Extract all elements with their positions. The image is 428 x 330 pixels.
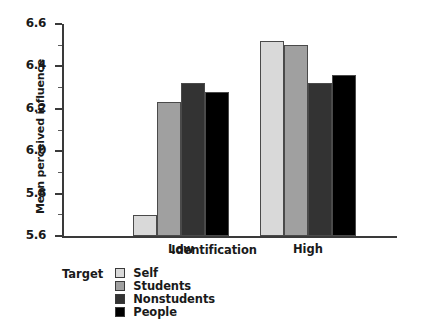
bar	[157, 102, 181, 236]
legend: Target SelfStudentsNonstudentsPeople	[62, 266, 215, 318]
y-axis-minor-tick	[58, 130, 62, 131]
y-axis-minor-tick	[58, 172, 62, 173]
y-axis-minor-tick	[58, 45, 62, 46]
y-axis-tick: 6.6	[55, 23, 62, 25]
y-axis-minor-tick	[58, 214, 62, 215]
legend-swatch	[115, 281, 125, 291]
y-axis-line	[62, 24, 64, 237]
y-axis-tick-label: 5.8	[26, 186, 46, 200]
y-axis-minor-tick	[58, 87, 62, 88]
bar	[308, 83, 332, 236]
bar	[332, 75, 356, 236]
bar-chart-figure: Mean perceived influence 5.65.86.06.26.4…	[0, 0, 428, 330]
bar	[260, 41, 284, 236]
x-axis-line	[62, 236, 397, 238]
bar	[205, 92, 229, 236]
bar	[284, 45, 308, 236]
legend-item: People	[115, 305, 215, 318]
legend-swatch	[115, 294, 125, 304]
legend-item-label: Students	[133, 279, 191, 293]
y-axis-tick: 6.0	[55, 150, 62, 152]
y-axis-tick-label: 6.0	[26, 143, 46, 157]
y-axis-tick: 5.8	[55, 193, 62, 195]
x-axis-title: Identification	[0, 243, 428, 257]
legend-item: Students	[115, 279, 215, 292]
y-axis-tick-label: 6.4	[26, 58, 46, 72]
y-axis-tick-label: 6.2	[26, 101, 46, 115]
bar	[181, 83, 205, 236]
plot-area: 5.65.86.06.26.46.6LowHigh	[62, 24, 397, 236]
legend-item: Nonstudents	[115, 292, 215, 305]
legend-title: Target	[62, 266, 103, 281]
legend-swatch	[115, 307, 125, 317]
legend-item: Self	[115, 266, 215, 279]
legend-item-list: SelfStudentsNonstudentsPeople	[115, 266, 215, 318]
y-axis-tick: 6.2	[55, 108, 62, 110]
y-axis-tick-label: 5.6	[26, 228, 46, 242]
y-axis-tick: 5.6	[55, 235, 62, 237]
legend-item-label: People	[133, 305, 177, 319]
legend-item-label: Nonstudents	[133, 292, 215, 306]
y-axis-tick: 6.4	[55, 65, 62, 67]
legend-item-label: Self	[133, 266, 158, 280]
y-axis-tick-label: 6.6	[26, 16, 46, 30]
legend-swatch	[115, 268, 125, 278]
bar	[133, 215, 157, 236]
